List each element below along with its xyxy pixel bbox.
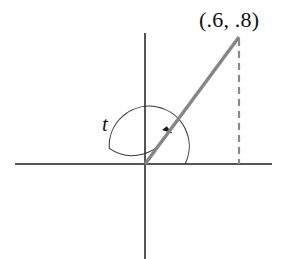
point-coordinate-label: (.6, .8) [199, 9, 259, 31]
trigonometry-figure: (.6, .8) t [0, 0, 282, 259]
terminal-ray [145, 37, 239, 164]
coordinate-plane-svg [0, 0, 282, 259]
angle-label-t: t [102, 114, 108, 135]
angle-arc [109, 106, 189, 164]
